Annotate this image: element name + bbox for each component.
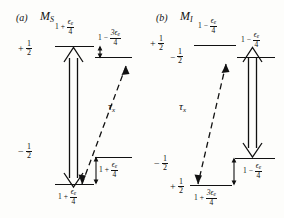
panel-b-tau-arrowhead-upper bbox=[222, 64, 230, 73]
panel-b-mi: (b) MI 1 − ϵe 4 + 1 2 − 1 2 1 − ϵe 4 bbox=[142, 0, 284, 218]
panel-a-hollow-arrow bbox=[64, 48, 83, 188]
panel-a-splitting-indicator-upper bbox=[98, 46, 103, 59]
panel-a-tau-arrowhead-upper bbox=[122, 66, 130, 75]
panel-a-ms: (a) MS 1 + ϵe 4 + 1 2 1 − 3ϵe 4 − 1 2 bbox=[0, 0, 142, 218]
panel-b-tau-arrowhead-lower bbox=[195, 175, 203, 185]
panel-a-tau-dashed-line bbox=[82, 66, 126, 184]
panel-b-graphics bbox=[142, 0, 284, 218]
panel-b-splitting-indicator-lower bbox=[232, 158, 237, 186]
panel-b-tau-dashed-line bbox=[198, 64, 226, 184]
panel-a-tau-arrowhead-lower bbox=[79, 175, 87, 185]
panel-a-graphics bbox=[0, 0, 142, 218]
panel-b-hollow-arrow bbox=[243, 48, 262, 158]
panel-a-splitting-indicator-lower bbox=[94, 157, 99, 185]
